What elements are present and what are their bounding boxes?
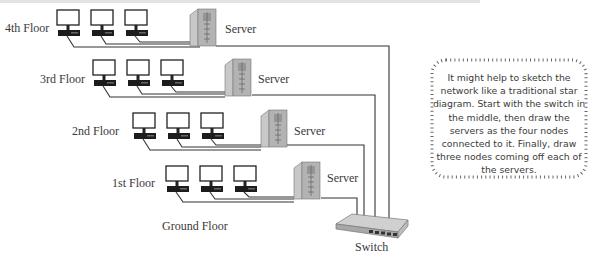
floor-3-workstations bbox=[93, 60, 184, 86]
server-label-4: Server bbox=[225, 22, 256, 37]
server-label-1: Server bbox=[327, 171, 358, 186]
hint-note-text: It might help to sketch the network like… bbox=[430, 71, 588, 177]
floor-2-workstations bbox=[133, 113, 224, 139]
floor-label-4: 4th Floor bbox=[5, 21, 49, 36]
floor-label-1: 1st Floor bbox=[112, 176, 155, 191]
floor-1-workstations bbox=[166, 166, 257, 192]
floor-label-3: 3rd Floor bbox=[40, 72, 85, 87]
ground-floor-label: Ground Floor bbox=[162, 219, 228, 234]
server-label-3: Server bbox=[258, 72, 289, 87]
switch-icon bbox=[336, 214, 408, 238]
floor-4-workstations bbox=[57, 10, 148, 36]
hint-note: It might help to sketch the network like… bbox=[430, 57, 588, 179]
switch-label: Switch bbox=[355, 240, 388, 255]
server-label-2: Server bbox=[294, 124, 325, 139]
floor-label-2: 2nd Floor bbox=[72, 124, 119, 139]
